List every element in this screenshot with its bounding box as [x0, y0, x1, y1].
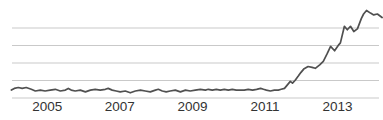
trend-line-chart: 20052007200920112013 — [0, 0, 383, 120]
x-axis-label: 2011 — [250, 99, 279, 114]
x-axis-label: 2007 — [105, 99, 135, 114]
line-chart-canvas: 20052007200920112013 — [0, 0, 383, 120]
x-axis-label: 2009 — [177, 99, 207, 114]
x-axis-labels: 20052007200920112013 — [32, 99, 352, 114]
gridlines — [12, 28, 379, 98]
x-axis-label: 2005 — [32, 99, 62, 114]
x-axis-label: 2013 — [322, 99, 352, 114]
